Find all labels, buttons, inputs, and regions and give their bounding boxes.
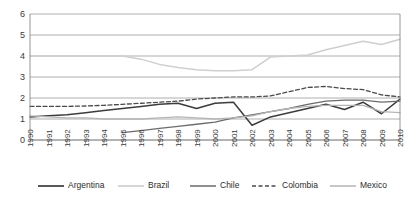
- x-tick-label: 2007: [341, 129, 350, 147]
- x-tick-label: 2000: [211, 129, 220, 147]
- line-chart: 0123456 19901991199219931994199519961997…: [0, 0, 410, 203]
- y-tick-label: 4: [20, 51, 25, 61]
- x-tick-label: 1993: [82, 129, 91, 147]
- chart-legend: ArgentinaBrazilChileColombiaMexico: [38, 180, 387, 190]
- y-tick-label: 2: [20, 93, 25, 103]
- x-tick-label: 1998: [174, 129, 183, 147]
- x-tick-label: 1999: [193, 129, 202, 147]
- x-tick-label: 1997: [156, 129, 165, 147]
- legend-label-chile[interactable]: Chile: [220, 180, 240, 190]
- x-tick-label: 2002: [248, 129, 257, 147]
- x-tick-label: 2008: [359, 129, 368, 147]
- x-tick-label: 2009: [378, 129, 387, 147]
- y-tick-label: 0: [20, 135, 25, 145]
- legend-label-brazil[interactable]: Brazil: [148, 180, 169, 190]
- x-tick-label: 2004: [285, 129, 294, 147]
- legend-label-argentina[interactable]: Argentina: [68, 180, 105, 190]
- x-tick-label: 1992: [63, 129, 72, 147]
- series-line-argentina: [30, 99, 400, 125]
- x-tick-label: 2001: [230, 129, 239, 147]
- x-tick-label: 2006: [322, 129, 331, 147]
- x-axis-labels: 1990199119921993199419951996199719981999…: [26, 129, 405, 147]
- x-tick-label: 2005: [304, 129, 313, 147]
- y-tick-label: 3: [20, 72, 25, 82]
- x-tick-label: 1995: [119, 129, 128, 147]
- y-axis-tick-labels: 0123456: [20, 9, 25, 145]
- legend-label-colombia[interactable]: Colombia: [282, 180, 318, 190]
- x-tick-label: 1996: [137, 129, 146, 147]
- x-tick-label: 1994: [100, 129, 109, 147]
- y-tick-label: 1: [20, 114, 25, 124]
- x-tick-label: 1991: [45, 129, 54, 147]
- x-tick-label: 2010: [396, 129, 405, 147]
- y-tick-label: 6: [20, 9, 25, 19]
- series-line-brazil: [30, 39, 400, 70]
- legend-label-mexico[interactable]: Mexico: [360, 180, 387, 190]
- y-tick-label: 5: [20, 30, 25, 40]
- gridlines: [30, 14, 400, 140]
- chart-canvas: 0123456 19901991199219931994199519961997…: [0, 0, 410, 203]
- x-tick-label: 1990: [26, 129, 35, 147]
- x-tick-label: 2003: [267, 129, 276, 147]
